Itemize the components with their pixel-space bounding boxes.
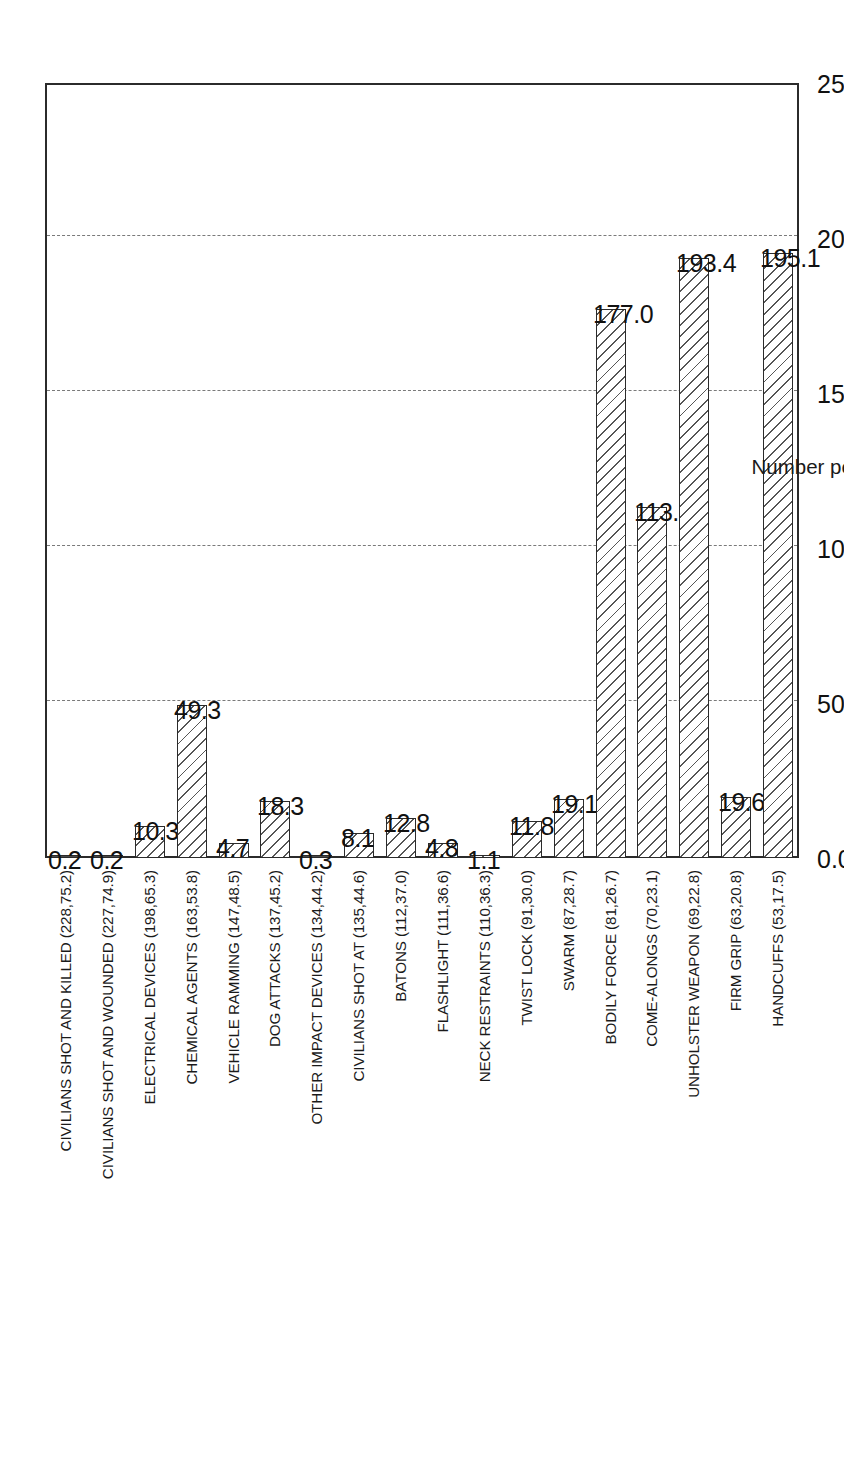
category-label: TWIST LOCK (91,30.0) (518, 870, 535, 1026)
value-axis-tick-0: 0.0 (817, 845, 844, 874)
bar-value-label: 12.8 (383, 809, 430, 838)
category-label: VEHICLE RAMMING (147,48.5) (225, 870, 242, 1083)
bar[interactable] (596, 309, 626, 858)
bar-group (679, 83, 709, 858)
bar-value-label: 4.8 (425, 834, 458, 863)
bar-group (51, 83, 81, 858)
category-label: FIRM GRIP (63,20.8) (727, 870, 744, 1011)
bar-value-label: 19.6 (718, 788, 765, 817)
category-label: CIVILIANS SHOT AT (135,44.6) (350, 870, 367, 1082)
category-label: COME-ALONGS (70,23.1) (643, 870, 660, 1047)
bar-value-label: 49.3 (174, 696, 221, 725)
bar-group (386, 83, 416, 858)
category-label: BODILY FORCE (81,26.7) (602, 870, 619, 1045)
bar-group (177, 83, 207, 858)
value-axis-tick-50: 50.0 (817, 690, 844, 719)
rotated-figure-canvas: 0.2CIVILIANS SHOT AND KILLED (228,75.2)0… (0, 0, 844, 1470)
category-label: HANDCUFFS (53,17.5) (769, 870, 786, 1027)
bar-group (428, 83, 458, 858)
bar-group (302, 83, 332, 858)
bar-value-label: 18.3 (257, 792, 304, 821)
bar[interactable] (177, 705, 207, 858)
category-label: NECK RESTRAINTS (110,36.3) (476, 870, 493, 1082)
value-axis-tick-100: 100.0 (817, 535, 844, 564)
category-label: UNHOLSTER WEAPON (69,22.8) (685, 870, 702, 1098)
bar-group (344, 83, 374, 858)
bar-value-label: 11.8 (509, 812, 554, 841)
bar[interactable] (637, 507, 667, 858)
bar-value-label: 195.1 (760, 244, 820, 273)
bar-value-label: 8.1 (341, 824, 374, 853)
bar-group (721, 83, 751, 858)
bar-chart-figure: 0.2CIVILIANS SHOT AND KILLED (228,75.2)0… (0, 0, 844, 1470)
category-label: BATONS (112,37.0) (392, 870, 409, 1002)
bar-group (219, 83, 249, 858)
bar-group (93, 83, 123, 858)
bar-value-label: 10.3 (132, 817, 179, 846)
category-label: CIVILIANS SHOT AND KILLED (228,75.2) (57, 870, 74, 1151)
category-label: FLASHLIGHT (111,36.6) (434, 870, 451, 1033)
bar-group (637, 83, 667, 858)
bar-group (260, 83, 290, 858)
bar-value-label: 4.7 (216, 834, 249, 863)
value-axis-tick-250: 250.0 (817, 70, 844, 99)
bar[interactable] (679, 258, 709, 858)
bar-group (512, 83, 542, 858)
category-label: OTHER IMPACT DEVICES (134,44.2) (308, 870, 325, 1125)
bar-value-label: 19.1 (551, 790, 598, 819)
category-label: CHEMICAL AGENTS (163,53.8) (183, 870, 200, 1085)
bar[interactable] (763, 253, 793, 858)
value-axis-title: Number per 1,000 Sworn Officers (752, 455, 844, 479)
bar-group (135, 83, 165, 858)
bar-group (554, 83, 584, 858)
category-label: SWARM (87,28.7) (560, 870, 577, 991)
category-label: CIVILIANS SHOT AND WOUNDED (227,74.9) (99, 870, 116, 1179)
bar-group (470, 83, 500, 858)
category-label: DOG ATTACKS (137,45.2) (266, 870, 283, 1047)
bar-group (596, 83, 626, 858)
value-axis-tick-150: 150.0 (817, 380, 844, 409)
category-label: ELECTRICAL DEVICES (198,65.3) (141, 870, 158, 1105)
value-axis-tick-200: 200.0 (817, 225, 844, 254)
